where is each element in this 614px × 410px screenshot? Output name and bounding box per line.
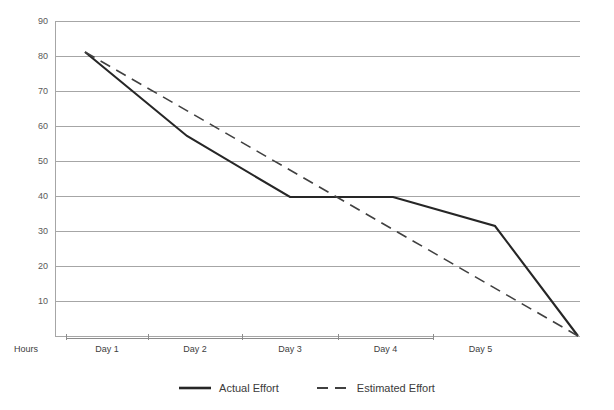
x-tick-label-day-3: Day 3: [242, 343, 338, 355]
x-tick-label-day-2: Day 2: [148, 343, 242, 355]
x-tick-3: [338, 334, 339, 340]
x-tick-1: [148, 334, 149, 340]
x-tick-label-day-5: Day 5: [433, 343, 528, 355]
burndown-chart: 90 80 70 60 50 40 30 20 10 Hours Day 1 D…: [0, 0, 614, 410]
legend-swatch-solid-icon: [179, 383, 211, 393]
series-line-estimated-effort: [85, 52, 578, 336]
series-line-actual-effort: [85, 52, 578, 336]
x-axis-line: [66, 338, 434, 339]
legend-label-estimated-effort: Estimated Effort: [357, 382, 435, 394]
x-tick-label-day-4: Day 4: [338, 343, 433, 355]
chart-legend: Actual Effort Estimated Effort: [0, 379, 614, 397]
x-tick-2: [242, 334, 243, 340]
x-axis-hours-label: Hours: [14, 343, 38, 355]
legend-item-actual-effort: Actual Effort: [179, 382, 279, 394]
x-tick-0: [66, 334, 67, 340]
x-tick-4: [433, 334, 434, 340]
x-tick-label-day-1: Day 1: [66, 343, 148, 355]
legend-label-actual-effort: Actual Effort: [219, 382, 279, 394]
legend-swatch-dashed-icon: [317, 383, 349, 393]
legend-item-estimated-effort: Estimated Effort: [317, 382, 435, 394]
